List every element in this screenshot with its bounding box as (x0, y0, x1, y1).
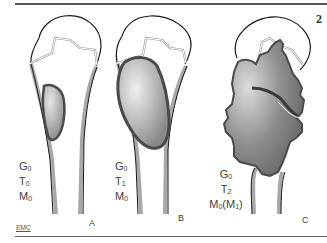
metastasis-c: M0(M1) (203, 198, 249, 213)
bone-illustrations (0, 0, 327, 243)
stage-label-b: G0 T1 M0 (115, 160, 128, 205)
grade-c: G0 (203, 168, 249, 183)
credit-label: EMC (16, 224, 31, 231)
panel-letter-c: C (302, 215, 309, 225)
bottom-rule (15, 236, 327, 237)
tumor-a: T0 (19, 175, 32, 190)
stage-label-a: G0 T0 M0 (19, 160, 32, 205)
grade-b: G0 (115, 160, 128, 175)
panel-letter-a: A (89, 218, 95, 228)
stage-label-c: G0 T2 M0(M1) (203, 168, 249, 213)
tumor-c: T2 (203, 183, 249, 198)
panel-letter-b: B (178, 213, 184, 223)
tumor-b: T1 (115, 175, 128, 190)
grade-a: G0 (19, 160, 32, 175)
metastasis-a: M0 (19, 190, 32, 205)
bone-panel-a (30, 16, 101, 215)
metastasis-b: M0 (115, 190, 128, 205)
